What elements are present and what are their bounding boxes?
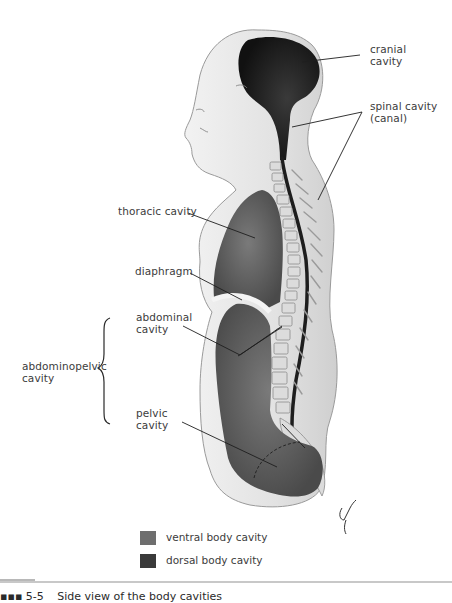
label-abdominal-cavity: abdominal cavity [136,311,192,335]
label-thoracic-cavity: thoracic cavity [118,205,197,217]
legend-swatch-ventral [140,531,156,545]
label-cranial-cavity: cranial cavity [370,43,406,67]
legend-label-ventral: ventral body cavity [166,531,267,543]
artist-signature [340,500,356,534]
label-pelvic-cavity: pelvic cavity [136,407,168,431]
caption-rule [0,581,452,583]
figure-caption: ▪▪▪ 5-5 Side view of the body cavities [0,590,222,603]
label-spinal-cavity: spinal cavity (canal) [370,100,437,124]
label-abdominopelvic-cavity: abdominopelvic cavity [22,360,107,384]
caption-title: Side view of the body cavities [57,590,222,603]
legend-swatch-dorsal [140,554,156,568]
label-diaphragm: diaphragm [135,265,193,277]
legend-label-dorsal: dorsal body cavity [166,554,263,566]
caption-prefix: ▪▪▪ 5-5 [0,590,44,603]
